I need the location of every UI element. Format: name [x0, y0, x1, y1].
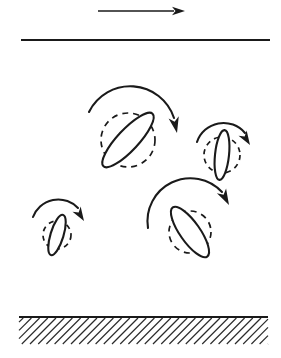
ground-hatch-line: [30, 318, 56, 344]
ground-hatch-line: [38, 318, 64, 344]
ground-hatch-line: [235, 318, 261, 344]
ground-hatch-line: [186, 318, 212, 344]
particle-lower-left-body: [45, 213, 70, 257]
ground-hatch-line: [79, 318, 105, 344]
ground-hatch-line: [251, 327, 268, 344]
spin-arrow-lower-left-arc: [33, 199, 78, 217]
ground-hatch-line: [128, 318, 154, 344]
ground-hatch-line: [46, 318, 72, 344]
ground-hatch-line: [210, 318, 236, 344]
ground-hatch-line: [202, 318, 228, 344]
particle-lower-left: [33, 199, 84, 257]
ground-hatch-line: [145, 318, 171, 344]
ground-hatch-line: [161, 318, 187, 344]
ground-hatch-line: [153, 318, 179, 344]
particle-lower-right-body: [165, 202, 216, 263]
ground-hatch-line: [260, 336, 268, 344]
particle-upper-left: [89, 86, 179, 173]
particle-upper-left-body: [96, 107, 160, 174]
ground-hatch-line: [63, 318, 89, 344]
ground-hatch-line: [137, 318, 163, 344]
figure-canvas: [0, 0, 281, 358]
ground-hatch-line: [227, 318, 253, 344]
particles-group: [33, 86, 250, 262]
particle-right: [197, 123, 250, 181]
ground-hatch-line: [112, 318, 138, 344]
ground-hatch-line: [96, 318, 122, 344]
particle-lower-right: [147, 178, 229, 262]
ground-hatch-line: [19, 318, 40, 339]
ground-hatch-line: [55, 318, 81, 344]
ground-hatch-line: [19, 318, 23, 322]
spin-arrow-upper-left-arc: [89, 86, 174, 118]
ground-hatch-line: [104, 318, 130, 344]
flow-direction-arrow-group: [98, 7, 185, 15]
ground-hatch-line: [71, 318, 97, 344]
ground-hatch-line: [219, 318, 245, 344]
spin-arrow-lower-right-head: [217, 188, 229, 205]
ground-hatching: [19, 318, 268, 344]
ground-hatch-line: [194, 318, 220, 344]
ground-hatch-line: [120, 318, 146, 344]
ground-hatch-line: [22, 318, 48, 344]
ground-surface-group: [19, 317, 268, 344]
ground-hatch-line: [87, 318, 113, 344]
diagram-svg: [0, 0, 281, 358]
ground-hatch-line: [178, 318, 204, 344]
ground-hatch-line: [169, 318, 195, 344]
particle-right-body: [212, 129, 231, 180]
